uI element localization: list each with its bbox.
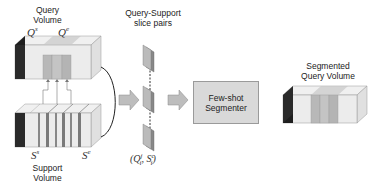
segmented-volume-label: Segmented Query Volume bbox=[288, 61, 368, 81]
slice-pairs-label: Query-Support slice pairs bbox=[118, 8, 188, 28]
support-volume-label: Support Volume bbox=[20, 163, 75, 183]
q-start-symbol: Qs bbox=[27, 25, 38, 38]
q-end-symbol: Qe bbox=[58, 25, 69, 38]
s-end-symbol: Se bbox=[82, 148, 91, 161]
slice-connectors bbox=[43, 79, 71, 104]
query-volume-box bbox=[15, 36, 101, 79]
segmented-volume-box bbox=[283, 86, 367, 123]
s-start-symbol: Ss bbox=[31, 148, 39, 161]
few-shot-segmenter-box: Few-shot Segmenter bbox=[193, 81, 259, 124]
query-volume-label: Query Volume bbox=[20, 5, 75, 25]
segmenter-label: Few-shot Segmenter bbox=[205, 93, 247, 113]
pair-notation: (Qji, Sci) bbox=[130, 152, 156, 167]
q-start-base: Q bbox=[27, 26, 35, 38]
s-start-sup: s bbox=[37, 148, 40, 156]
arrow-2 bbox=[168, 90, 188, 110]
s-end-sup: e bbox=[88, 148, 91, 156]
arrow-1 bbox=[119, 90, 139, 110]
support-volume-box bbox=[15, 104, 101, 147]
q-start-sup: s bbox=[35, 25, 38, 33]
pair-close: ) bbox=[153, 153, 156, 164]
bracket-curve bbox=[101, 67, 115, 137]
q-end-sup: e bbox=[66, 25, 69, 33]
q-end-base: Q bbox=[58, 26, 66, 38]
slice-pair-stack bbox=[143, 45, 154, 151]
